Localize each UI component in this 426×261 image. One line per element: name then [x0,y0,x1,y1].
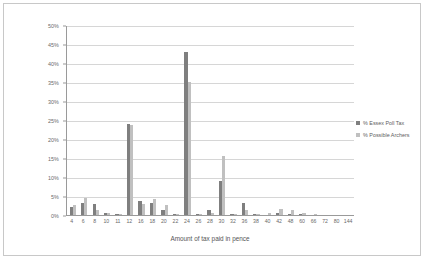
bar-group [251,26,262,215]
x-axis-tick-label: 38 [250,218,262,224]
x-axis-tick-label: 22 [170,218,182,224]
x-axis-tick-label: 10 [101,218,113,224]
bar-group [297,26,308,215]
plot-area [66,26,354,216]
x-axis-tick-label: 144 [342,218,354,224]
x-axis-tick-label: 42 [273,218,285,224]
x-axis-tick-label: 12 [124,218,136,224]
bar [302,213,305,215]
bar-group [182,26,193,215]
x-axis-tick-label: 32 [227,218,239,224]
bar-series-group [67,26,354,215]
bar-group [136,26,147,215]
bar-group [228,26,239,215]
bar [176,214,179,215]
y-axis: 0%5%10%15%20%25%30%35%40%45%50% [4,26,66,216]
y-axis-tick-label: 15% [48,156,59,162]
legend: % Essex Poll Tax% Possible Archers [356,120,424,144]
bar-group [124,26,135,215]
bar [222,156,225,215]
bar [130,125,133,215]
x-axis-tick-label: 26 [193,218,205,224]
legend-swatch-icon [356,133,360,137]
legend-swatch-icon [356,121,360,125]
bar [211,213,214,215]
x-axis: 4681011121618202224262830323638404248606… [66,218,354,224]
y-axis-tick-label: 30% [48,99,59,105]
bar-group [343,26,354,215]
bar-group [285,26,296,215]
x-axis-tick-label: 36 [239,218,251,224]
bar [73,205,76,215]
bar [119,214,122,215]
x-axis-tick-label: 16 [135,218,147,224]
bar-group [90,26,101,215]
y-axis-tick-label: 0% [51,213,59,219]
bar-group [78,26,89,215]
legend-item[interactable]: % Possible Archers [356,132,424,138]
bar-group [147,26,158,215]
bar [188,82,191,215]
bar-group [308,26,319,215]
bar-group [274,26,285,215]
bar-group [262,26,273,215]
x-axis-tick-label: 28 [204,218,216,224]
bar-group [101,26,112,215]
x-axis-tick-label: 20 [158,218,170,224]
x-axis-tick-label: 24 [181,218,193,224]
legend-label: % Possible Archers [363,132,409,138]
x-axis-tick-label: 72 [319,218,331,224]
bar [268,213,271,215]
y-axis-tick-label: 5% [51,194,59,200]
y-axis-tick-label: 35% [48,80,59,86]
bar [107,213,110,215]
legend-item[interactable]: % Essex Poll Tax [356,120,424,126]
bar [165,205,168,215]
bar [153,199,156,215]
legend-label: % Essex Poll Tax [363,120,404,126]
x-axis-tick-label: 66 [308,218,320,224]
bar-group [170,26,181,215]
bar-group [67,26,78,215]
chart-container: 0%5%10%15%20%25%30%35%40%45%50% 46810111… [3,3,421,256]
bar-group [205,26,216,215]
x-axis-tick-label: 40 [262,218,274,224]
x-axis-tick-label: 18 [147,218,159,224]
bar [279,209,282,215]
x-axis-tick-label: 80 [331,218,343,224]
x-axis-tick-label: 30 [216,218,228,224]
bar [245,210,248,215]
bar [291,210,294,215]
bar-group [331,26,342,215]
y-axis-tick-label: 20% [48,137,59,143]
bar [256,214,259,215]
x-axis-tick-label: 11 [112,218,124,224]
y-axis-tick-label: 45% [48,42,59,48]
y-axis-tick-label: 40% [48,61,59,67]
bar-group [193,26,204,215]
y-axis-tick-label: 25% [48,118,59,124]
bar-group [216,26,227,215]
bar-group [113,26,124,215]
x-axis-tick-label: 60 [296,218,308,224]
x-axis-tick-label: 4 [66,218,78,224]
bar [84,198,87,215]
y-axis-tick-label: 10% [48,175,59,181]
bar [199,214,202,215]
x-axis-tick-label: 8 [89,218,101,224]
y-axis-tick-label: 50% [48,23,59,29]
bar-group [159,26,170,215]
x-axis-tick-label: 48 [285,218,297,224]
bar [96,210,99,215]
bar [234,214,237,215]
bar [314,214,317,215]
x-axis-title: Amount of tax paid in pence [66,235,354,242]
bar-group [320,26,331,215]
x-axis-tick-label: 6 [78,218,90,224]
bar-group [239,26,250,215]
bar [142,204,145,215]
